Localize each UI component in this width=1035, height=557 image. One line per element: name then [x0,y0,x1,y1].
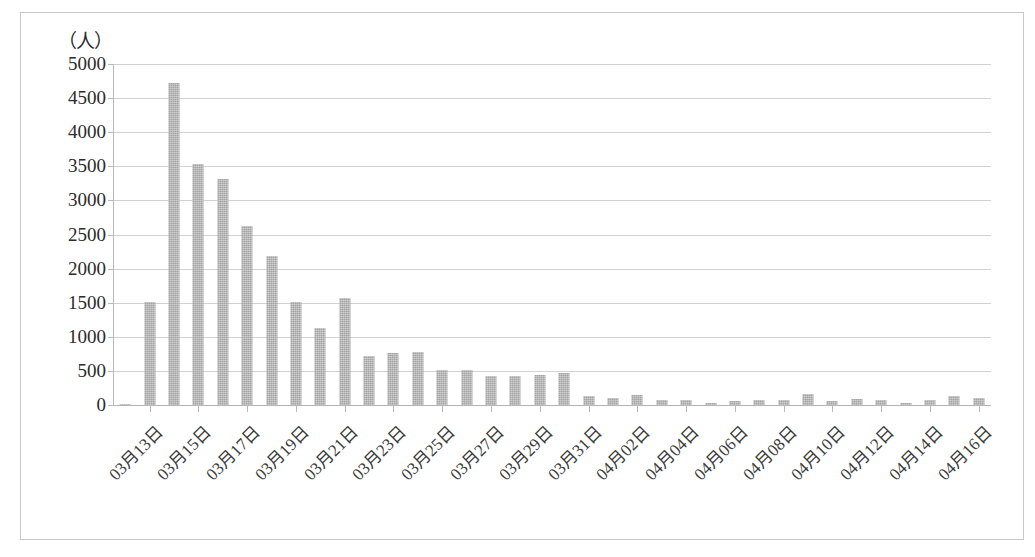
chart-figure: （人） 050010001500200025003000350040004500… [0,0,1035,557]
x-axis-tick-labels: 03月13日03月15日03月17日03月19日03月21日03月23日03月2… [0,0,1035,557]
